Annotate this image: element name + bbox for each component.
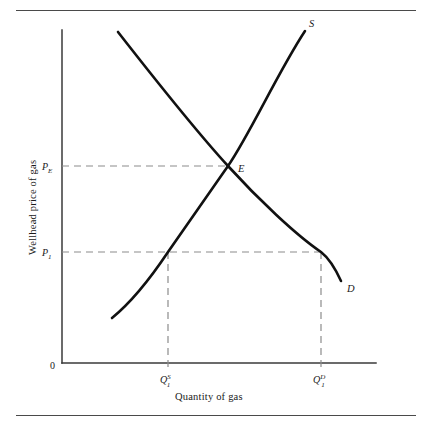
x-tick-qs-superscript: S bbox=[167, 373, 171, 381]
y-tick-p1-subscript: 1 bbox=[48, 253, 52, 261]
x-tick-qs-subscript: 1 bbox=[167, 381, 171, 389]
supply-demand-chart: S D E 0 PE P1 QS1 QD1 Wellhead price of … bbox=[0, 0, 430, 424]
y-tick-pe-base: P bbox=[41, 161, 48, 172]
x-axis-title: Quantity of gas bbox=[175, 391, 243, 402]
y-tick-label-p1: P1 bbox=[41, 247, 52, 261]
supply-curve bbox=[112, 31, 305, 318]
x-tick-label-qd: QD1 bbox=[313, 373, 325, 389]
x-tick-qd-superscript: D bbox=[319, 373, 325, 381]
x-tick-qd-subscript: 1 bbox=[321, 381, 325, 389]
x-tick-label-qs: QS1 bbox=[160, 373, 171, 389]
equilibrium-label: E bbox=[237, 163, 245, 174]
y-axis-title: Wellhead price of gas bbox=[27, 160, 38, 255]
origin-label: 0 bbox=[50, 360, 55, 371]
supply-curve-label: S bbox=[309, 18, 315, 29]
figure-root: S D E 0 PE P1 QS1 QD1 Wellhead price of … bbox=[0, 0, 430, 424]
demand-curve-label: D bbox=[346, 283, 355, 294]
demand-curve bbox=[118, 32, 341, 281]
y-tick-label-pe: PE bbox=[41, 161, 53, 175]
y-tick-p1-base: P bbox=[41, 247, 48, 258]
y-tick-pe-subscript: E bbox=[47, 167, 53, 175]
